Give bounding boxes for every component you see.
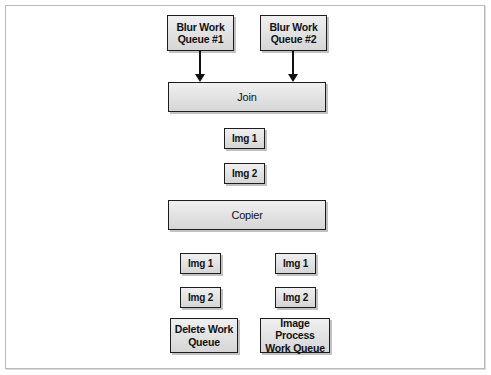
node-blur-work-queue-1-label: Blur Work Queue #1 [174,21,226,46]
node-right-img-2-label: Img 2 [281,292,310,304]
node-join-img-1-label: Img 1 [230,133,259,145]
node-blur-work-queue-2[interactable]: Blur Work Queue #2 [260,15,327,51]
node-blur-work-queue-1[interactable]: Blur Work Queue #1 [167,15,234,51]
node-right-img-1[interactable]: Img 1 [275,253,316,274]
node-join-img-2[interactable]: Img 2 [224,163,265,184]
node-join-label: Join [235,91,258,104]
node-left-img-2-label: Img 2 [186,292,215,304]
diagram-frame [5,5,485,369]
node-left-img-1-label: Img 1 [186,258,215,270]
diagram-canvas: Blur Work Queue #1 Blur Work Queue #2 Jo… [0,0,491,375]
node-right-img-2[interactable]: Img 2 [275,287,316,308]
node-join-img-2-label: Img 2 [230,168,259,180]
node-blur-work-queue-2-label: Blur Work Queue #2 [267,21,319,46]
node-join-img-1[interactable]: Img 1 [224,128,265,149]
node-join[interactable]: Join [168,82,326,112]
node-copier[interactable]: Copier [168,200,326,230]
node-delete-work-queue-label: Delete Work Queue [173,323,235,348]
node-left-img-2[interactable]: Img 2 [180,287,221,308]
node-image-process-work-queue[interactable]: Image Process Work Queue [260,318,330,353]
node-left-img-1[interactable]: Img 1 [180,253,221,274]
node-right-img-1-label: Img 1 [281,258,310,270]
node-delete-work-queue[interactable]: Delete Work Queue [170,318,238,353]
node-copier-label: Copier [229,209,264,222]
node-image-process-work-queue-label: Image Process Work Queue [261,317,329,354]
